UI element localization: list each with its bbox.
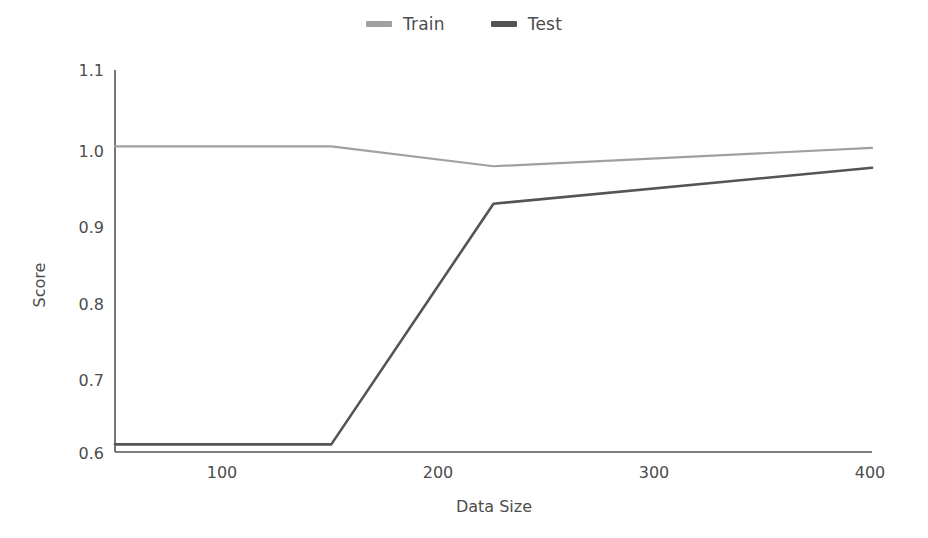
y-tick-label-3: 0.9 <box>79 218 104 237</box>
chart-figure: Train Test 1.1 1.0 0.9 0.8 0.7 0.6 100 2… <box>0 0 928 538</box>
x-tick-label-3: 300 <box>639 463 670 482</box>
series-line-train <box>115 146 872 166</box>
x-tick-label-2: 200 <box>423 463 454 482</box>
y-tick-label-1: 1.1 <box>79 61 104 80</box>
x-axis-title: Data Size <box>456 497 532 516</box>
x-tick-label-4: 400 <box>855 463 886 482</box>
chart-plot-area: 1.1 1.0 0.9 0.8 0.7 0.6 100 200 300 400 … <box>0 0 928 538</box>
series-line-test <box>115 168 872 445</box>
x-tick-label-1: 100 <box>207 463 238 482</box>
y-tick-label-5: 0.7 <box>79 371 104 390</box>
y-tick-label-4: 0.8 <box>79 295 104 314</box>
y-axis-title: Score <box>30 263 49 308</box>
y-tick-label-2: 1.0 <box>79 142 104 161</box>
y-tick-label-6: 0.6 <box>79 444 104 463</box>
